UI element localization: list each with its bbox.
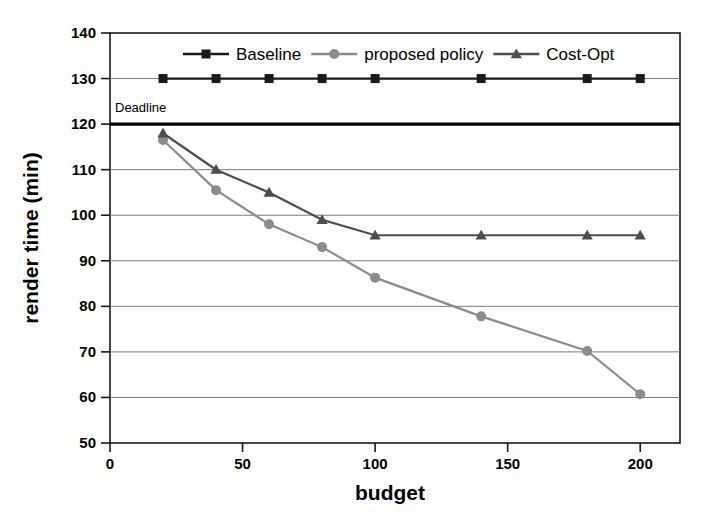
y-tick-label: 130 xyxy=(71,70,96,87)
data-point-marker xyxy=(635,389,645,399)
y-tick-label: 100 xyxy=(71,206,96,223)
data-point-marker xyxy=(476,311,486,321)
y-tick-label: 60 xyxy=(79,388,96,405)
chart-legend: Baselineproposed policyCost-Opt xyxy=(183,45,615,64)
y-tick-label: 50 xyxy=(79,434,96,451)
legend-label: Baseline xyxy=(236,45,301,64)
data-point-marker xyxy=(211,185,221,195)
x-tick-label: 200 xyxy=(628,455,653,472)
legend-label: Cost-Opt xyxy=(546,45,614,64)
data-point-marker xyxy=(329,49,339,59)
y-axis-title: render time (min) xyxy=(19,152,42,324)
data-point-marker xyxy=(370,273,380,283)
data-point-marker xyxy=(477,74,486,83)
x-tick-label: 150 xyxy=(495,455,520,472)
y-tick-label: 140 xyxy=(71,24,96,41)
data-point-marker xyxy=(371,74,380,83)
line-chart-svg: 5060708090100110120130140 050100150200 D… xyxy=(0,0,723,527)
data-point-marker xyxy=(159,74,168,83)
x-tick-label: 100 xyxy=(363,455,388,472)
data-point-marker xyxy=(317,242,327,252)
data-point-marker xyxy=(202,50,211,59)
y-tick-label: 120 xyxy=(71,115,96,132)
y-tick-label: 110 xyxy=(72,161,96,178)
legend-label: proposed policy xyxy=(364,45,484,64)
y-tick-label: 80 xyxy=(79,297,96,314)
data-point-marker xyxy=(583,74,592,83)
y-tick-label: 90 xyxy=(79,252,96,269)
data-point-marker xyxy=(636,74,645,83)
x-tick-label: 50 xyxy=(234,455,251,472)
deadline-label: Deadline xyxy=(115,100,166,115)
y-tick-label: 70 xyxy=(79,343,96,360)
data-point-marker xyxy=(264,219,274,229)
data-point-marker xyxy=(582,346,592,356)
data-point-marker xyxy=(318,74,327,83)
x-tick-label: 0 xyxy=(106,455,114,472)
data-point-marker xyxy=(265,74,274,83)
chart-figure: 5060708090100110120130140 050100150200 D… xyxy=(0,0,723,527)
data-point-marker xyxy=(212,74,221,83)
x-axis-title: budget xyxy=(355,481,425,504)
